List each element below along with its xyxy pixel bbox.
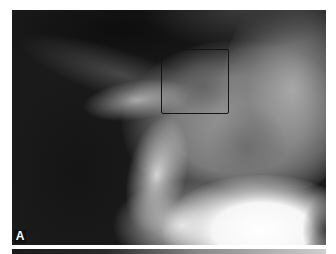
panel-label: A xyxy=(14,230,26,243)
radiograph-image: A xyxy=(12,10,326,245)
next-panel-edge xyxy=(12,249,326,254)
region-of-interest-box xyxy=(161,49,229,114)
